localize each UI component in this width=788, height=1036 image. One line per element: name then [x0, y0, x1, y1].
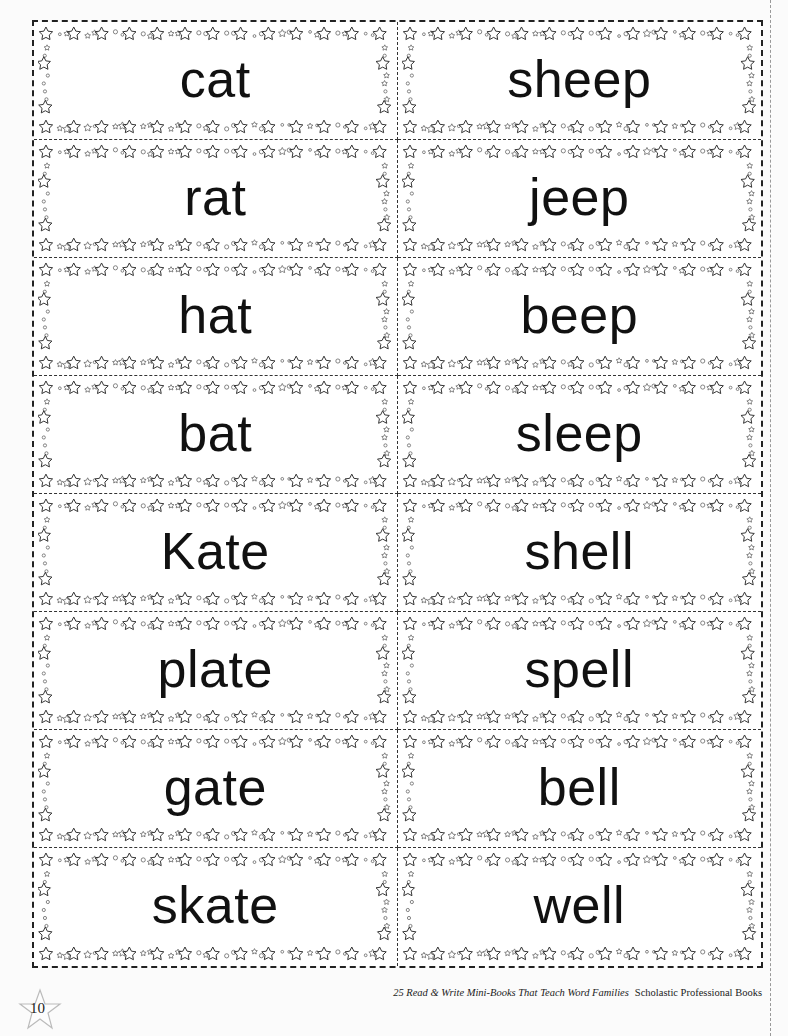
- word-card: cat: [34, 22, 398, 140]
- card-word: cat: [180, 53, 251, 105]
- card-word: well: [533, 879, 625, 931]
- card-word: beep: [520, 289, 638, 341]
- word-card: Kate: [34, 494, 398, 612]
- card-word: spell: [525, 643, 634, 695]
- word-card: spell: [398, 612, 762, 730]
- card-word: jeep: [529, 171, 629, 223]
- card-word: bat: [178, 407, 252, 459]
- word-card: beep: [398, 258, 762, 376]
- word-card: skate: [34, 848, 398, 966]
- word-card: rat: [34, 140, 398, 258]
- word-card: plate: [34, 612, 398, 730]
- card-word: skate: [152, 879, 279, 931]
- page-number: 10: [30, 1000, 45, 1017]
- card-word: sleep: [516, 407, 643, 459]
- card-word: rat: [184, 171, 246, 223]
- word-card: well: [398, 848, 762, 966]
- card-word: bell: [538, 761, 621, 813]
- page-footer: 25 Read & Write Mini-Books That Teach Wo…: [393, 987, 762, 998]
- word-card: jeep: [398, 140, 762, 258]
- book-title: 25 Read & Write Mini-Books That Teach Wo…: [393, 987, 629, 998]
- word-card: sheep: [398, 22, 762, 140]
- word-card: bell: [398, 730, 762, 848]
- word-card: gate: [34, 730, 398, 848]
- card-word: hat: [178, 289, 252, 341]
- card-word: gate: [164, 761, 267, 813]
- publisher-name: Scholastic Professional Books: [635, 987, 762, 998]
- word-card: sleep: [398, 376, 762, 494]
- word-card: hat: [34, 258, 398, 376]
- cut-guide-line: [770, 0, 771, 1036]
- card-word: plate: [158, 643, 273, 695]
- word-card: shell: [398, 494, 762, 612]
- card-word: sheep: [507, 53, 651, 105]
- card-word: shell: [525, 525, 634, 577]
- word-card-grid: catsheepratjeephatbeepbatsleepKateshellp…: [32, 20, 763, 968]
- card-word: Kate: [161, 525, 270, 577]
- word-card: bat: [34, 376, 398, 494]
